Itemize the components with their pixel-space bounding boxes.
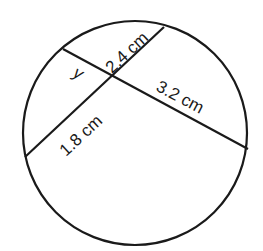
label-1-8-cm: 1.8 cm [56, 111, 106, 160]
intersecting-chords-diagram: y 2.4 cm 3.2 cm 1.8 cm [0, 0, 263, 251]
label-y: y [69, 62, 88, 84]
label-2-4-cm: 2.4 cm [102, 28, 152, 77]
